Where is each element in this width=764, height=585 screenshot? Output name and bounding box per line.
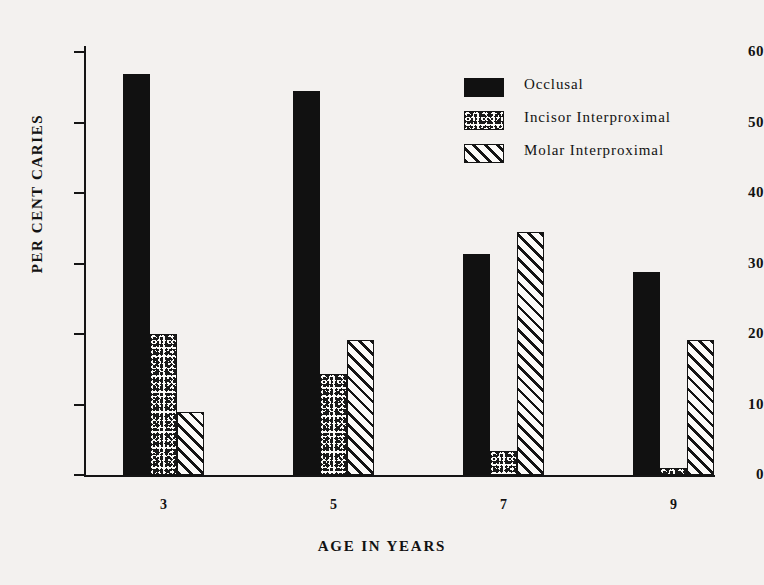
legend-item: Occlusal — [464, 76, 724, 109]
bar — [347, 340, 374, 475]
y-axis-tick — [74, 474, 84, 476]
x-axis-title: AGE IN YEARS — [0, 538, 764, 555]
y-axis-tick — [74, 192, 84, 194]
legend-label: Molar Interproximal — [524, 142, 664, 159]
bar — [463, 254, 490, 475]
chart-page: 0102030405060 PER CENT CARIES AGE IN YEA… — [0, 0, 764, 585]
legend-swatch-solid — [464, 78, 504, 97]
legend-swatch-hatch — [464, 144, 504, 163]
bar — [633, 272, 660, 475]
bar-chart: 0102030405060 PER CENT CARIES AGE IN YEA… — [0, 0, 764, 585]
bar — [293, 91, 320, 475]
x-axis-line — [84, 475, 715, 477]
y-axis-tick — [74, 404, 84, 406]
chart-legend: OcclusalIncisor InterproximalMolar Inter… — [464, 76, 724, 175]
legend-label: Incisor Interproximal — [524, 109, 671, 126]
legend-item: Incisor Interproximal — [464, 109, 724, 142]
bar — [490, 451, 517, 475]
bar — [660, 468, 687, 475]
legend-label: Occlusal — [524, 76, 584, 93]
x-axis-category-label: 7 — [500, 497, 507, 513]
x-axis-category-label: 5 — [330, 497, 337, 513]
legend-swatch-stipple — [464, 111, 504, 130]
bar — [123, 74, 150, 475]
x-axis-category-label: 9 — [670, 497, 677, 513]
y-axis-title: PER CENT CARIES — [29, 94, 46, 294]
y-axis-tick — [74, 333, 84, 335]
bar — [177, 412, 204, 475]
x-axis-category-label: 3 — [160, 497, 167, 513]
y-axis-tick — [74, 263, 84, 265]
bar — [517, 232, 544, 475]
legend-item: Molar Interproximal — [464, 142, 724, 175]
bar — [320, 374, 347, 475]
y-axis-tick — [74, 122, 84, 124]
y-axis-tick — [74, 51, 84, 53]
bar — [687, 340, 714, 475]
bar — [150, 334, 177, 475]
